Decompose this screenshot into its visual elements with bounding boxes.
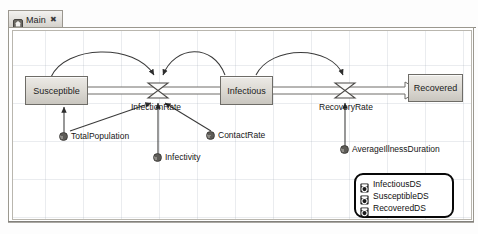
tab-strip: Main ✖ [8, 10, 476, 28]
dataset-item-recoveredds[interactable]: RecoveredDS [360, 202, 445, 214]
stock-susceptible[interactable]: Susceptible [25, 76, 88, 105]
home-icon [13, 15, 23, 25]
stock-recovered[interactable]: Recovered [408, 74, 463, 102]
stock-recovered-label: Recovered [414, 83, 458, 93]
tab-main-label: Main [26, 15, 46, 25]
dataset-group[interactable]: InfectiousDS SusceptibleDS [354, 173, 454, 218]
dataset-icon [360, 179, 369, 189]
tab-main[interactable]: Main ✖ [8, 10, 63, 28]
stock-infectious[interactable]: Infectious [220, 76, 273, 105]
parameter-totalpopulation[interactable]: TotalPopulation [59, 131, 129, 141]
parameter-infectivity[interactable]: Infectivity [153, 152, 200, 162]
parameter-icon [206, 131, 215, 140]
dataset-icon [360, 203, 369, 213]
dataset-item-infectiousds[interactable]: InfectiousDS [360, 178, 445, 190]
parameter-averageillnessduration-label: AverageIllnessDuration [352, 144, 440, 154]
flow-label-infectionrate[interactable]: InfectionRate [131, 102, 181, 112]
dataset-item-susceptibleds-label: SusceptibleDS [373, 191, 429, 201]
link-infectious-to-recoveryrate [256, 53, 343, 76]
flow-label-recoveryrate[interactable]: RecoveryRate [319, 102, 373, 112]
parameter-icon [153, 153, 162, 162]
dataset-item-susceptibleds[interactable]: SusceptibleDS [360, 190, 445, 202]
parameter-icon [59, 132, 68, 141]
parameter-infectivity-label: Infectivity [165, 152, 200, 162]
dataset-item-infectiousds-label: InfectiousDS [373, 179, 421, 189]
dataset-icon [360, 191, 369, 201]
editor-window: Main ✖ [0, 0, 478, 234]
link-infectious-to-infectionrate [163, 52, 225, 75]
dataset-item-recoveredds-label: RecoveredDS [373, 203, 426, 213]
stock-susceptible-label: Susceptible [33, 86, 80, 96]
window-bottom-edge [8, 221, 474, 223]
close-icon[interactable]: ✖ [49, 16, 57, 24]
diagram-canvas[interactable]: Susceptible Infectious Recovered Infecti… [13, 31, 471, 219]
diagram-canvas-frame[interactable]: Susceptible Infectious Recovered Infecti… [12, 30, 472, 220]
stock-infectious-label: Infectious [227, 86, 266, 96]
parameter-contactrate[interactable]: ContactRate [206, 130, 265, 140]
tab-strip-filler [8, 10, 476, 28]
parameter-totalpopulation-label: TotalPopulation [71, 131, 129, 141]
parameter-icon [340, 145, 349, 154]
link-susceptible-to-infectionrate [51, 52, 154, 77]
parameter-contactrate-label: ContactRate [218, 130, 265, 140]
parameter-averageillnessduration[interactable]: AverageIllnessDuration [340, 144, 440, 154]
